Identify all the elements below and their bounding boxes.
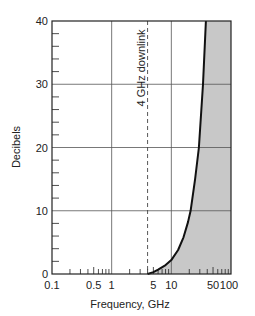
y-tick-labels: 010203040	[36, 15, 48, 280]
x-tick-label: 5	[150, 279, 156, 291]
x-axis-title: Frequency, GHz	[90, 298, 169, 310]
y-tick-label: 40	[36, 15, 48, 27]
y-tick-label: 20	[36, 142, 48, 154]
x-tick-label: 1	[109, 279, 115, 291]
x-tick-labels: 0.10.5151050100	[44, 279, 238, 291]
x-tick-label: 10	[165, 279, 177, 291]
attenuation-chart: 0.10.5151050100 010203040 4 GHz downlink…	[0, 0, 255, 316]
x-tick-label: 0.1	[44, 279, 59, 291]
y-tick-label: 10	[36, 205, 48, 217]
x-tick-label: 100	[220, 279, 238, 291]
x-tick-label: 0.5	[86, 279, 101, 291]
y-tick-label: 30	[36, 78, 48, 90]
x-tick-label: 50	[207, 279, 219, 291]
y-axis-title: Decibels	[10, 125, 22, 168]
downlink-label: 4 GHz downlink	[135, 29, 147, 107]
y-tick-label: 0	[42, 268, 48, 280]
